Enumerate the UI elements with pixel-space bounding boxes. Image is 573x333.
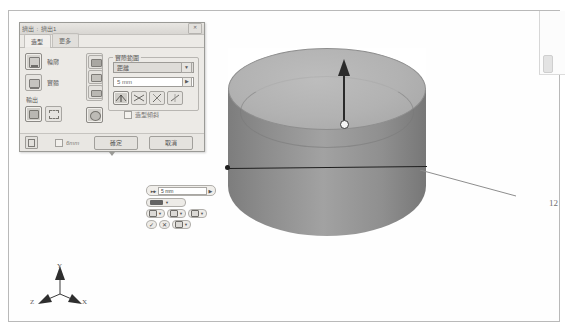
dialog-footer: 6mm 確定 取消 (20, 133, 204, 151)
more-options-icon[interactable] (25, 136, 38, 149)
axis-label-x: X (82, 298, 87, 306)
scrollbar-thumb[interactable] (543, 55, 553, 73)
operation-column (86, 53, 103, 134)
minibar-confirm-row: ✓ ✕ ▼ (146, 220, 216, 229)
extents-legend: 實際範圍 (113, 53, 141, 62)
close-icon[interactable]: ✕ (188, 23, 202, 34)
shape-column: 輪廓 實體 輸出 (25, 53, 81, 134)
extrude-origin-handle[interactable] (340, 120, 349, 129)
cut-icon[interactable] (88, 70, 103, 84)
distance-dropdown-icon[interactable]: ▶ (182, 77, 192, 87)
close-icon[interactable]: ✕ (159, 220, 170, 229)
extrude-dialog[interactable]: 擠出 : 擠出1 ✕ 造型 更多 輪廓 實體 (19, 22, 205, 152)
taper-checkbox[interactable] (124, 111, 132, 119)
options-icon[interactable]: ▼ (172, 220, 191, 229)
solid-icon[interactable] (25, 74, 42, 91)
taper-label: 造型傾斜 (135, 110, 159, 119)
right-side-panel (539, 11, 565, 75)
check-icon[interactable]: ✓ (146, 220, 157, 229)
section-line-endpoint[interactable] (225, 165, 230, 170)
floating-mini-toolbar[interactable]: ▸◂▸ 5 mm ▶ ▼ ▼ ▼ ▼ (146, 185, 216, 229)
footer-checkbox[interactable] (55, 139, 63, 147)
direction-button-row (113, 91, 194, 105)
extents-column: 實際範圍 距離 ▼ 5 mm ▶ (108, 53, 199, 134)
solid-label: 實體 (47, 78, 59, 87)
footer-checkbox-label: 6mm (66, 140, 79, 146)
chevron-down-icon[interactable]: ▼ (184, 223, 188, 227)
distance-value: 5 mm (117, 79, 182, 85)
tab-more[interactable]: 更多 (52, 33, 79, 47)
dialog-body: 輪廓 實體 輸出 (20, 48, 204, 134)
chevron-down-icon[interactable]: ▼ (200, 212, 204, 216)
operation-button-group (86, 53, 103, 101)
cylinder-model[interactable] (228, 48, 426, 224)
solid-output-icon[interactable] (25, 106, 42, 122)
screenshot-page: 擠出 : 擠出1 ✕ 造型 更多 輪廓 實體 (0, 0, 573, 333)
chevron-down-icon[interactable]: ▼ (165, 200, 169, 205)
cylinder-inner-edge (240, 76, 414, 148)
extents-group: 實際範圍 距離 ▼ 5 mm ▶ (108, 57, 199, 111)
ok-button[interactable]: 確定 (94, 136, 138, 150)
chevron-down-icon[interactable]: ▼ (181, 62, 192, 73)
chevron-down-icon[interactable]: ▼ (179, 212, 183, 216)
extents-type-select[interactable]: 距離 ▼ (113, 62, 194, 73)
minibar-operation-icon (150, 200, 163, 205)
axis-triad[interactable]: Y X Z (30, 264, 90, 310)
mb-surface-icon[interactable]: ▼ (167, 209, 186, 218)
cancel-button[interactable]: 取消 (149, 136, 193, 150)
profile-label: 輪廓 (47, 57, 59, 66)
profile-icon[interactable] (25, 53, 42, 70)
extrude-direction-arrow-head[interactable] (338, 59, 350, 76)
direction-3-icon[interactable] (149, 91, 165, 105)
surface-output-icon[interactable] (45, 106, 62, 122)
output-group-label: 輸出 (26, 95, 81, 104)
dialog-title: 擠出 : 擠出1 (22, 24, 57, 33)
intersect-icon[interactable] (88, 85, 103, 99)
direction-4-icon[interactable] (167, 91, 183, 105)
minibar-distance-dropdown-icon[interactable]: ▶ (207, 188, 214, 194)
minibar-distance-input[interactable]: 5 mm (158, 187, 207, 195)
chevron-down-icon[interactable]: ▼ (158, 212, 162, 216)
direction-2-icon[interactable] (131, 91, 147, 105)
leader-line (420, 170, 520, 198)
taper-checkbox-row[interactable]: 造型傾斜 (124, 110, 159, 119)
output-button-row (25, 106, 81, 122)
extents-type-value: 距離 (117, 63, 181, 72)
join-icon[interactable] (88, 55, 103, 69)
minibar-distance-row[interactable]: ▸◂▸ 5 mm ▶ (146, 185, 216, 196)
profile-select-button[interactable]: 輪廓 (25, 53, 81, 70)
footer-checkbox-row[interactable]: 6mm (55, 139, 79, 147)
extrude-direction-arrow-shaft (343, 74, 345, 124)
solid-select-button[interactable]: 實體 (25, 74, 81, 91)
mb-solid-icon[interactable]: ▼ (146, 209, 165, 218)
new-solid-icon[interactable] (86, 107, 103, 123)
minibar-option-row: ▼ ▼ ▼ (146, 209, 216, 218)
drag-handle-icon[interactable]: ▸◂▸ (148, 187, 158, 195)
mb-taper-icon[interactable]: ▼ (188, 209, 207, 218)
minibar-operation-row: ▼ (146, 198, 216, 207)
axis-label-y: Y (57, 262, 62, 270)
tab-shape[interactable]: 造型 (24, 34, 51, 48)
dialog-tabs[interactable]: 造型 更多 (20, 35, 204, 48)
minibar-operation-select[interactable]: ▼ (146, 198, 186, 207)
callout-number: 12 (549, 198, 558, 208)
dialog-resize-grip[interactable] (109, 152, 115, 156)
direction-1-icon[interactable] (113, 91, 129, 105)
distance-input[interactable]: 5 mm ▶ (113, 77, 194, 87)
axis-label-z: Z (30, 298, 34, 306)
